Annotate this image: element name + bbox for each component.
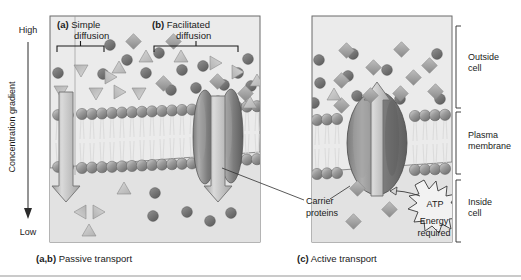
caption-right-tag: (c) xyxy=(297,253,309,264)
svg-text:(a) Simple: (a) Simple xyxy=(57,19,100,30)
lipid-head xyxy=(439,163,450,174)
gradient-high-label: High xyxy=(19,25,38,35)
particle-circle xyxy=(154,48,165,59)
lipid-head xyxy=(409,164,420,175)
lipid-head xyxy=(429,164,440,175)
particle-circle xyxy=(105,40,116,51)
lipid-head xyxy=(419,110,430,121)
atp-label: ATP xyxy=(427,199,444,209)
figure-root: High Low Concentration gradient (a) Simp… xyxy=(0,0,521,280)
particle-circle xyxy=(226,208,237,219)
outside-cell-label-1: Outside xyxy=(468,52,499,62)
particle-circle xyxy=(53,68,64,79)
carrier-proteins-label-2: proteins xyxy=(306,208,339,218)
caption-passive-transport: (a,b) Passive transport xyxy=(36,253,132,264)
gradient-low-label: Low xyxy=(20,227,37,237)
carrier-proteins-label-1: Carrier xyxy=(306,196,334,206)
lipid-head xyxy=(311,114,322,125)
particle-circle xyxy=(150,188,161,199)
lipid-head xyxy=(321,168,332,179)
particle-circle xyxy=(122,55,133,66)
particle-circle xyxy=(432,49,443,60)
particle-circle xyxy=(205,216,216,227)
lipid-head xyxy=(331,167,342,178)
svg-text:(c) Active transport: (c) Active transport xyxy=(297,253,377,264)
particle-circle xyxy=(141,68,152,79)
panel-a-title-1: Simple xyxy=(71,19,100,30)
particle-circle xyxy=(177,65,188,76)
lipid-head xyxy=(409,110,420,121)
particle-circle xyxy=(315,78,326,89)
caption-active-transport: (c) Active transport xyxy=(297,253,377,264)
lipid-head xyxy=(439,109,450,120)
plasma-membrane-label-2: membrane xyxy=(468,141,511,151)
panel-b-title-2: diffusion xyxy=(176,30,211,41)
caption-right-text: Active transport xyxy=(311,253,377,264)
lipid-head xyxy=(311,168,322,179)
particle-circle xyxy=(191,83,202,94)
panel-a-title-2: diffusion xyxy=(74,30,109,41)
panel-a-tag: (a) xyxy=(57,19,69,30)
particle-circle xyxy=(382,65,393,76)
inside-cell-label-1: Inside xyxy=(468,197,492,207)
outside-cell-label-2: cell xyxy=(468,63,482,73)
particle-circle xyxy=(243,54,254,65)
lipid-head xyxy=(331,113,342,124)
panel-b-tag: (b) xyxy=(152,19,164,30)
transport-diagram: High Low Concentration gradient (a) Simp… xyxy=(0,0,521,280)
particle-circle xyxy=(148,211,159,222)
particle-circle xyxy=(314,55,325,66)
energy-required-label-1: Energy xyxy=(420,216,449,226)
lipid-head xyxy=(241,154,252,165)
particle-circle xyxy=(352,91,363,102)
svg-text:(a,b) Passive transport: (a,b) Passive transport xyxy=(36,253,132,264)
panel-passive-transport xyxy=(50,16,264,242)
caption-left-text: Passive transport xyxy=(59,253,133,264)
panel-b-title-1: Facilitated xyxy=(167,19,210,30)
particle-circle xyxy=(182,207,193,218)
svg-text:(b) Facilitated: (b) Facilitated xyxy=(152,19,210,30)
plasma-membrane-label-1: Plasma xyxy=(468,130,498,140)
particle-circle xyxy=(198,61,209,72)
lipid-head xyxy=(419,164,430,175)
caption-left-tag: (a,b) xyxy=(36,253,56,264)
gradient-axis-label: Concentration gradient xyxy=(7,81,17,173)
lipid-head xyxy=(429,110,440,121)
inside-cell-label-2: cell xyxy=(468,208,482,218)
lipid-head xyxy=(321,114,332,125)
energy-required-label-2: required xyxy=(417,228,450,238)
